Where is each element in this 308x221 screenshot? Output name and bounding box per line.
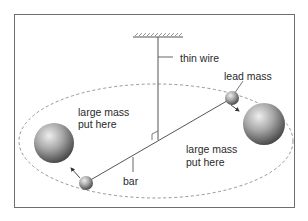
lead-mass-right xyxy=(225,91,239,105)
lead-mass-left xyxy=(79,176,93,190)
large-mass-right xyxy=(243,103,285,145)
label-bar: bar xyxy=(123,175,138,187)
label-lead-mass: lead mass xyxy=(224,70,272,82)
label-thin-wire: thin wire xyxy=(180,52,219,64)
ceiling-support xyxy=(133,33,183,37)
label-large-mass-right-1: large mass xyxy=(186,143,237,155)
right-angle-marker xyxy=(152,131,158,140)
large-mass-left xyxy=(34,123,74,163)
arrow-left xyxy=(71,168,80,178)
torsion-balance-drawing xyxy=(0,0,308,221)
label-large-mass-left-2: put here xyxy=(78,118,117,130)
label-large-mass-right-2: put here xyxy=(186,156,225,168)
label-large-mass-left-1: large mass xyxy=(78,106,129,118)
arrow-right xyxy=(231,105,239,111)
